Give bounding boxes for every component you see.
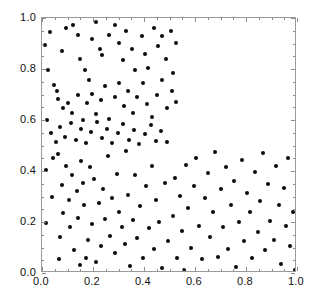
data-point <box>50 195 54 199</box>
data-point <box>194 156 198 160</box>
tick-mark <box>182 269 183 271</box>
data-point <box>94 260 98 264</box>
tick-mark <box>106 18 107 20</box>
data-point <box>70 111 74 115</box>
data-point <box>71 23 75 27</box>
data-point <box>174 100 178 104</box>
data-point <box>256 230 260 234</box>
tick-mark <box>293 31 295 32</box>
tick-mark <box>42 158 44 159</box>
data-point <box>49 131 53 135</box>
data-point <box>197 224 201 228</box>
tick-mark <box>291 171 295 172</box>
data-point <box>147 226 151 230</box>
data-point <box>61 211 65 215</box>
tick-mark <box>293 197 295 198</box>
data-point <box>60 49 64 53</box>
data-point <box>133 173 137 177</box>
data-point <box>64 164 68 168</box>
data-point <box>137 142 141 146</box>
data-point <box>79 159 83 163</box>
tick-mark <box>68 18 69 20</box>
data-point <box>85 101 89 105</box>
x-tick-label: 0.4 <box>135 275 151 287</box>
tick-mark <box>221 269 222 271</box>
data-point <box>135 236 139 240</box>
data-point <box>219 187 223 191</box>
tick-mark <box>293 146 295 147</box>
data-point <box>94 20 98 24</box>
data-point <box>113 23 117 27</box>
data-point <box>245 191 249 195</box>
data-point <box>208 235 212 239</box>
tick-mark <box>42 95 44 96</box>
data-point <box>105 127 109 131</box>
data-point <box>268 219 272 223</box>
tick-mark <box>293 158 295 159</box>
data-point <box>154 198 158 202</box>
tick-mark <box>131 269 132 271</box>
data-point <box>175 256 179 260</box>
data-point <box>75 189 79 193</box>
plot-frame <box>41 17 296 272</box>
data-point <box>272 238 276 242</box>
y-tick-label: 0.0 <box>36 266 52 278</box>
tick-mark <box>42 248 44 249</box>
tick-mark <box>42 31 44 32</box>
data-point <box>206 171 210 175</box>
data-point <box>68 225 72 229</box>
data-point <box>282 186 286 190</box>
tick-mark <box>42 146 44 147</box>
data-point <box>81 118 85 122</box>
data-point <box>107 33 111 37</box>
data-point <box>58 235 62 239</box>
tick-mark <box>246 267 247 271</box>
data-point <box>133 68 137 72</box>
x-tick-label: 0.2 <box>84 275 100 287</box>
data-point <box>127 138 131 142</box>
data-point <box>143 52 147 56</box>
data-point <box>173 176 177 180</box>
data-point <box>248 210 252 214</box>
data-point <box>184 163 188 167</box>
tick-mark <box>42 184 44 185</box>
data-point <box>180 229 184 233</box>
data-point <box>113 251 117 255</box>
tick-mark <box>170 269 171 271</box>
tick-mark <box>293 95 295 96</box>
data-point <box>90 222 94 226</box>
data-point <box>279 262 283 266</box>
tick-mark <box>259 269 260 271</box>
tick-mark <box>55 18 56 20</box>
data-point <box>57 257 61 261</box>
data-point <box>110 196 114 200</box>
x-tick-label: 0.8 <box>237 275 253 287</box>
data-point <box>237 220 241 224</box>
tick-mark <box>291 222 295 223</box>
data-point <box>56 97 60 101</box>
tick-mark <box>93 18 94 22</box>
data-point <box>159 129 163 133</box>
data-point <box>70 173 74 177</box>
data-point <box>86 238 90 242</box>
data-point <box>121 122 125 126</box>
data-point <box>171 71 175 75</box>
data-point <box>152 26 156 30</box>
data-point <box>213 150 217 154</box>
data-point <box>99 98 103 102</box>
data-point <box>232 179 236 183</box>
data-point <box>66 101 70 105</box>
tick-mark <box>293 209 295 210</box>
tick-mark <box>42 107 44 108</box>
tick-mark <box>293 107 295 108</box>
data-point <box>261 151 265 155</box>
data-point <box>113 95 117 99</box>
tick-mark <box>80 269 81 271</box>
data-point <box>76 33 80 37</box>
data-point <box>150 164 154 168</box>
tick-mark <box>42 56 44 57</box>
data-point <box>123 242 127 246</box>
data-point <box>291 210 295 214</box>
data-point <box>216 255 220 259</box>
data-point <box>274 164 278 168</box>
